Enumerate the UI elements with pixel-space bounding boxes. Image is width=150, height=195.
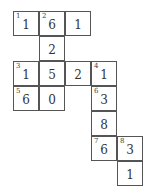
grid-cell[interactable]: 0: [39, 86, 65, 111]
cell-value: 3: [118, 143, 142, 157]
cell-value: 1: [14, 68, 38, 82]
grid-cell[interactable]: 41: [91, 61, 117, 86]
grid-cell[interactable]: 31: [13, 61, 39, 86]
grid-cell[interactable]: 56: [13, 86, 39, 111]
cell-value: 6: [92, 143, 116, 157]
cell-value: 6: [40, 18, 64, 32]
cell-value: 1: [92, 68, 116, 82]
grid-cell[interactable]: 63: [91, 86, 117, 111]
cell-value: 1: [66, 18, 90, 32]
grid-cell[interactable]: 76: [91, 136, 117, 161]
cell-value: 1: [118, 168, 142, 182]
cell-value: 6: [14, 93, 38, 107]
grid-cell[interactable]: 5: [39, 61, 65, 86]
cell-value: 3: [92, 93, 116, 107]
grid-cell[interactable]: 8: [91, 111, 117, 136]
grid-cell[interactable]: 26: [39, 11, 65, 36]
cell-value: 2: [66, 68, 90, 82]
cell-value: 5: [40, 68, 64, 82]
grid-cell[interactable]: 11: [13, 11, 39, 36]
grid-cell[interactable]: 2: [65, 61, 91, 86]
cell-value: 1: [14, 18, 38, 32]
grid-cell[interactable]: 1: [117, 161, 143, 186]
cell-value: 0: [40, 93, 64, 107]
cell-value: 2: [40, 43, 64, 57]
grid-cell[interactable]: 1: [65, 11, 91, 36]
cell-value: 8: [92, 118, 116, 132]
number-crossword-grid: 11261231524156063876831: [13, 11, 143, 187]
grid-cell[interactable]: 83: [117, 136, 143, 161]
grid-cell[interactable]: 2: [39, 36, 65, 61]
